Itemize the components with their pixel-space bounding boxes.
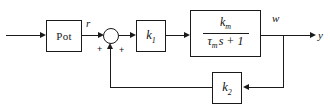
output-arrowhead: [310, 32, 316, 38]
gain2-to-sum-line: [110, 87, 212, 88]
gain1-to-plant-line: [166, 35, 184, 36]
signal-label-r: r: [86, 17, 90, 29]
pot-block[interactable]: Pot: [46, 20, 82, 52]
signal-label-y: y: [318, 29, 323, 41]
plant-transfer-function-block[interactable]: km τm s + 1: [190, 10, 261, 57]
plant-numerator: km: [214, 16, 237, 33]
gain2-input-arrowhead: [243, 84, 249, 90]
output-line: [261, 35, 313, 36]
pot-to-sum-line: [82, 35, 99, 36]
sum-sign-left: +: [97, 45, 102, 54]
gain1-block[interactable]: k1: [136, 20, 166, 52]
gain1-label: k1: [146, 28, 156, 45]
plant-denominator: τm s + 1: [204, 34, 248, 51]
summing-junction[interactable]: [103, 28, 119, 44]
block-diagram: Pot r + + k1 km τm s + 1 w y k2: [0, 0, 330, 110]
plant-transfer-function: km τm s + 1: [203, 16, 249, 51]
feedback-riser-line: [110, 49, 111, 88]
signal-label-w: w: [272, 12, 279, 24]
gain2-block[interactable]: k2: [212, 72, 242, 104]
feedback-takeoff-line: [283, 35, 284, 88]
gain2-label: k2: [222, 80, 232, 97]
pot-block-label: Pot: [56, 30, 71, 42]
feedback-to-gain2-line: [248, 87, 284, 88]
input-line: [6, 35, 40, 36]
sum-feedback-arrowhead: [107, 43, 113, 49]
sum-sign-right: +: [119, 46, 124, 55]
